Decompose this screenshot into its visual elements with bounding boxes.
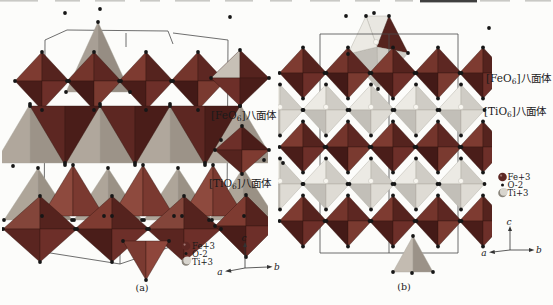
vertex-dot bbox=[96, 20, 100, 24]
o-dot-icon bbox=[185, 252, 188, 255]
octahedron-face bbox=[280, 221, 304, 247]
vertex-dot bbox=[364, 14, 368, 18]
fe-sphere-highlight bbox=[500, 175, 502, 177]
vertex-dot bbox=[391, 194, 395, 198]
tio6-octahedron-label-right: [TiO6]八面体 bbox=[484, 105, 547, 119]
triangle-face bbox=[146, 241, 169, 280]
figure-canvas: [FeO6]八面体 [TiO6]八面体 [FeO6]八面体 [TiO6]八面体 … bbox=[0, 0, 553, 305]
octahedron-face bbox=[211, 78, 240, 106]
vertex-dot bbox=[133, 163, 137, 167]
octahedron-face bbox=[370, 221, 394, 247]
vertex-dot bbox=[145, 227, 149, 231]
vertex-dot bbox=[144, 50, 148, 54]
vertex-dot bbox=[436, 245, 440, 249]
vertex-dot bbox=[431, 270, 435, 274]
dark-text-mark bbox=[420, 0, 477, 2]
vertex-dot bbox=[278, 134, 282, 138]
vertex-dot bbox=[36, 166, 40, 170]
octahedron-face bbox=[460, 48, 484, 74]
vertex-dot bbox=[481, 46, 485, 50]
vertex-dot bbox=[323, 145, 327, 149]
vertex-dot bbox=[301, 194, 305, 198]
vertex-dot bbox=[213, 148, 217, 152]
label-text: ]八面体 bbox=[512, 105, 547, 117]
vertex-dot bbox=[391, 120, 395, 124]
c-axis-label-b: c bbox=[506, 217, 511, 227]
octahedron-face bbox=[460, 221, 484, 247]
octahedron-face bbox=[280, 48, 304, 74]
a-axis-arrow bbox=[225, 269, 232, 273]
vertex-dot bbox=[11, 164, 15, 168]
vertex-dot bbox=[273, 161, 277, 165]
vertex-dot bbox=[391, 182, 395, 186]
vertex-dot bbox=[458, 71, 462, 75]
vertex-dot bbox=[411, 234, 415, 238]
vertex-dot bbox=[346, 46, 350, 50]
octahedron-face bbox=[303, 221, 327, 247]
vertex-dot bbox=[106, 166, 110, 170]
vertex-dot bbox=[203, 163, 207, 167]
vertex-dot bbox=[301, 245, 305, 249]
vertex-dot bbox=[413, 71, 417, 75]
vertex-dot bbox=[413, 145, 417, 149]
c-axis-label-a: c bbox=[241, 233, 246, 243]
faint-text-mark bbox=[225, 0, 253, 2]
faint-text-mark bbox=[55, 0, 80, 2]
vertex-dot bbox=[487, 26, 491, 30]
octahedron-face bbox=[42, 81, 69, 110]
octahedron-face bbox=[483, 122, 507, 148]
vertex-dot bbox=[65, 79, 69, 83]
vertex-dot bbox=[505, 145, 509, 149]
vertex-dot bbox=[346, 97, 350, 101]
vertex-dot bbox=[301, 46, 305, 50]
octahedron-face bbox=[15, 52, 42, 81]
ti-atom-dot bbox=[458, 104, 463, 109]
a-axis-line bbox=[493, 250, 510, 252]
vertex-dot bbox=[459, 83, 463, 87]
caption-a: (a) bbox=[135, 282, 148, 293]
crystal-structure-b bbox=[255, 11, 509, 275]
vertex-dot bbox=[376, 87, 380, 91]
vertex-dot bbox=[240, 124, 244, 128]
vertex-dot bbox=[391, 108, 395, 112]
vertex-dot bbox=[240, 172, 244, 176]
vertex-dot bbox=[40, 50, 44, 54]
vertex-dot bbox=[92, 108, 96, 112]
octahedron-face bbox=[257, 85, 281, 111]
a-axis-label-a: a bbox=[217, 267, 222, 277]
vertex-dot bbox=[368, 145, 372, 149]
vertex-dot bbox=[238, 104, 242, 108]
vertex-dot bbox=[275, 224, 279, 228]
vertex-dot bbox=[436, 46, 440, 50]
faint-text-mark bbox=[95, 0, 125, 2]
faint-text-mark bbox=[175, 0, 210, 2]
label-text: ]八面体 bbox=[241, 109, 276, 121]
octahedron-face bbox=[483, 221, 507, 247]
vertex-dot bbox=[228, 15, 232, 19]
vertex-dot bbox=[414, 83, 418, 87]
ti-atom-dot bbox=[368, 178, 373, 183]
vertex-dot bbox=[346, 245, 350, 249]
faint-text-mark bbox=[270, 0, 292, 2]
faint-text-mark bbox=[0, 0, 38, 2]
vertex-dot bbox=[372, 11, 376, 15]
vertex-dot bbox=[144, 108, 148, 112]
label-text: ]八面体 bbox=[516, 72, 551, 84]
vertex-dot bbox=[40, 214, 44, 218]
vertex-dot bbox=[481, 120, 485, 124]
ti-atom-dot bbox=[277, 104, 282, 109]
vertex-dot bbox=[391, 270, 395, 274]
vertex-dot bbox=[391, 245, 395, 249]
octahedron-face bbox=[171, 52, 198, 81]
vertex-dot bbox=[414, 134, 418, 138]
vertex-dot bbox=[387, 14, 391, 18]
vertex-dot bbox=[346, 182, 350, 186]
vertex-dot bbox=[436, 97, 440, 101]
vertex-dot bbox=[323, 219, 327, 223]
vertex-dot bbox=[436, 120, 440, 124]
vertex-dot bbox=[413, 219, 417, 223]
vertex-dot bbox=[38, 260, 42, 264]
b-axis-line bbox=[245, 267, 268, 268]
octahedron-face bbox=[325, 221, 349, 247]
vertex-dot bbox=[301, 120, 305, 124]
